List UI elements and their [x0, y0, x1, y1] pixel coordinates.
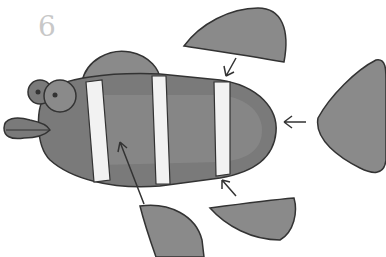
top-fin-part [184, 8, 286, 62]
fish-diagram [0, 0, 386, 257]
bottom-left-fin-part [140, 205, 204, 257]
stripe-3 [214, 82, 230, 176]
eye-front [44, 80, 76, 112]
arrow-top-fin [224, 58, 236, 76]
bottom-right-fin-part [210, 198, 295, 240]
pupil-front [53, 93, 58, 98]
arrow-tail-fin [284, 116, 306, 128]
tail-fin-part [318, 60, 386, 173]
arrow-bottom-right-fin [222, 180, 236, 196]
pupil-back [36, 90, 41, 95]
